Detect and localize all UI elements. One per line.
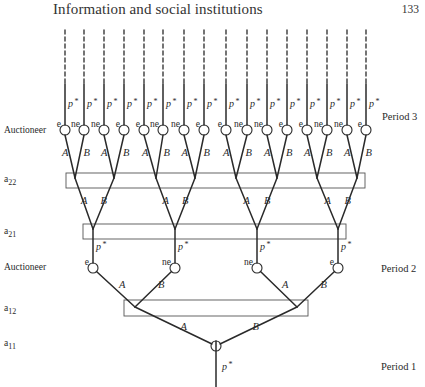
info-set-box-a12 [124, 300, 308, 316]
branch-b-label: B [182, 195, 189, 206]
auctioneer-node-period3 [242, 125, 252, 135]
equilibrium-price-label: p* [269, 97, 281, 109]
branch-b-label: B [286, 147, 293, 158]
not-expected-label: ne [91, 119, 100, 129]
branch-a-label: A [80, 195, 88, 206]
branch-a-label: A [243, 195, 251, 206]
branch-b-label: B [84, 147, 91, 158]
equilibrium-price-label: p* [259, 240, 271, 252]
a11-label: a11 [4, 338, 16, 351]
auctioneer-node-period3 [79, 125, 89, 135]
equilibrium-price-label: p* [186, 97, 198, 109]
branch-a-label: A [263, 147, 271, 158]
expected-label: e [218, 119, 222, 129]
equilibrium-price-label: p* [249, 97, 261, 109]
branch-b-label: B [123, 147, 130, 158]
equilibrium-price-label: p* [177, 240, 189, 252]
period-3-label: Period 3 [382, 111, 417, 122]
equilibrium-price-label: p* [221, 360, 233, 372]
branch-a-label: A [100, 147, 108, 158]
equilibrium-price-label: p* [67, 97, 79, 109]
tree-nodes [60, 125, 371, 351]
branch-b-label: B [246, 147, 253, 158]
expected-label: e [358, 119, 362, 129]
expected-label: e [279, 119, 283, 129]
expected-label: e [136, 119, 140, 129]
branch-a-label: A [141, 147, 149, 158]
branch-a-label: A [324, 195, 332, 206]
choice-branch-line [297, 272, 335, 308]
auctioneer-node-period3 [282, 125, 292, 135]
period-1-label: Period 1 [381, 361, 416, 372]
auctioneer-node-period3 [99, 125, 109, 135]
auctioneer-node-period3 [199, 125, 209, 135]
expected-label: e [85, 257, 89, 267]
branch-a-label: A [181, 147, 189, 158]
not-expected-label: ne [171, 119, 180, 129]
equilibrium-price-label: p* [206, 97, 218, 109]
auctioneer-node-period3 [302, 125, 312, 135]
equilibrium-price-label: p* [228, 97, 240, 109]
information-set-game-tree: Auctioneer a22 a21 Auctioneer a12 a11 Pe… [0, 0, 425, 387]
branch-a-label: A [180, 321, 188, 332]
expected-label: e [299, 119, 303, 129]
auctioneer-node-period3 [361, 125, 371, 135]
not-expected-label: ne [71, 119, 80, 129]
equilibrium-price-label: p* [368, 97, 380, 109]
a12-label: a12 [4, 303, 16, 316]
auctioneer-node-period3 [322, 125, 332, 135]
auctioneer-node-period2 [333, 263, 343, 273]
branch-b-label: B [264, 195, 271, 206]
choice-branch-line [135, 272, 172, 308]
auctioneer-node-period3 [179, 125, 189, 135]
auctioneer-node-period2 [252, 263, 262, 273]
tree-branches [65, 30, 366, 387]
auctioneer-node-period3 [221, 125, 231, 135]
branch-a-label: A [343, 147, 351, 158]
branch-b-label: B [164, 147, 171, 158]
branch-b-label: B [253, 321, 260, 332]
branch-b-label: B [345, 195, 352, 206]
not-expected-label: ne [254, 119, 263, 129]
period-labels: Period 3 Period 2 Period 1 [381, 111, 417, 372]
expected-label: e [57, 119, 61, 129]
branch-b-label: B [326, 147, 333, 158]
equilibrium-price-label: p* [340, 240, 352, 252]
auctioneer-node-period3 [139, 125, 149, 135]
equilibrium-price-label: p* [329, 97, 341, 109]
auctioneer-node-period3 [158, 125, 168, 135]
auctioneer-node-period2 [88, 263, 98, 273]
auctioneer-label-period3: Auctioneer [4, 125, 47, 135]
equilibrium-price-label: p* [95, 240, 107, 252]
equilibrium-price-label: p* [86, 97, 98, 109]
branch-a-label: A [162, 195, 170, 206]
branch-b-label: B [321, 279, 328, 290]
equilibrium-price-label: p* [106, 97, 118, 109]
expected-label: e [196, 119, 200, 129]
not-expected-label: ne [334, 119, 343, 129]
margin-labels: Auctioneer a22 a21 Auctioneer a12 a11 [4, 125, 47, 351]
branch-a-label: A [118, 279, 126, 290]
branch-a-label: A [222, 147, 230, 158]
auctioneer-node-period3 [262, 125, 272, 135]
branch-b-label: B [101, 195, 108, 206]
expected-label: e [330, 257, 334, 267]
info-set-box-a21 [83, 224, 346, 239]
branch-a-label: A [281, 279, 289, 290]
choice-branch-line [97, 272, 136, 308]
a21-label: a21 [4, 226, 16, 239]
choice-branch-line [156, 135, 163, 178]
expected-label: e [116, 119, 120, 129]
auctioneer-node-period3 [342, 125, 352, 135]
equilibrium-price-label: p* [146, 97, 158, 109]
branch-b-label: B [204, 147, 211, 158]
choice-branch-line [261, 272, 298, 308]
auctioneer-label-period2: Auctioneer [4, 262, 47, 272]
equilibrium-price-label: p* [289, 97, 301, 109]
a22-label: a22 [4, 174, 16, 187]
information-set-boxes [66, 173, 365, 316]
not-expected-label: ne [244, 257, 253, 267]
branch-a-label: A [61, 147, 69, 158]
choice-branch-line [135, 307, 212, 344]
branch-b-label: B [158, 279, 165, 290]
